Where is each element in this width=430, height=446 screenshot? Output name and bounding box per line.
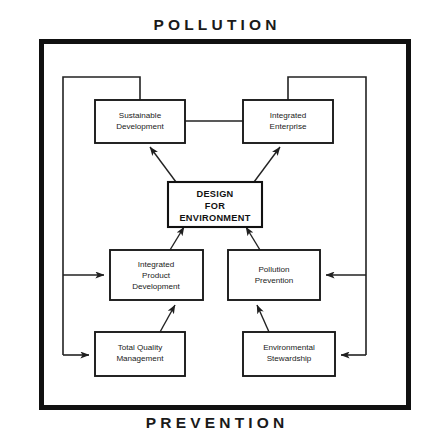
- node-total-quality-management[interactable]: Total Quality Management: [95, 332, 185, 376]
- node-environmental-stewardship[interactable]: Environmental Stewardship: [243, 332, 335, 376]
- node-environmental-stewardship-line1: Environmental: [263, 343, 315, 352]
- node-integrated-product-development-line3: Development: [132, 282, 180, 291]
- node-environmental-stewardship-line2: Stewardship: [267, 354, 312, 363]
- node-total-quality-management-line1: Total Quality: [118, 343, 163, 352]
- connector-tqm-to-ipd: [160, 305, 175, 332]
- node-design-for-environment-line3: ENVIRONMENT: [179, 213, 250, 223]
- node-integrated-enterprise-line2: Enterprise: [270, 122, 307, 131]
- node-pollution-prevention-line2: Prevention: [255, 276, 294, 285]
- connector-dfe-to-sustainable: [150, 147, 176, 182]
- node-sustainable-development-line1: Sustainable: [119, 111, 162, 120]
- node-integrated-enterprise-line1: Integrated: [270, 111, 306, 120]
- node-design-for-environment-line1: DESIGN: [196, 189, 233, 199]
- node-design-for-environment[interactable]: DESIGN FOR ENVIRONMENT: [168, 182, 262, 227]
- node-integrated-product-development[interactable]: Integrated Product Development: [110, 250, 203, 300]
- node-pollution-prevention[interactable]: Pollution Prevention: [228, 250, 320, 300]
- connector-pollution-prevention-to-dfe: [246, 227, 260, 250]
- node-integrated-product-development-line2: Product: [142, 271, 171, 280]
- page-title-bottom: PREVENTION: [0, 414, 430, 432]
- diagram-canvas: POLLUTION: [0, 0, 430, 446]
- node-integrated-product-development-line1: Integrated: [138, 260, 174, 269]
- connector-stewardship-to-pollution-prevention: [257, 305, 269, 332]
- connector-dfe-to-enterprise: [254, 147, 280, 182]
- node-total-quality-management-line2: Management: [116, 354, 164, 363]
- node-pollution-prevention-line1: Pollution: [258, 265, 289, 274]
- connector-ipd-to-dfe: [170, 227, 184, 250]
- pollution-prevention-diagram: Sustainable Development Integrated Enter…: [0, 0, 430, 446]
- node-integrated-enterprise[interactable]: Integrated Enterprise: [243, 100, 333, 143]
- node-design-for-environment-line2: FOR: [205, 201, 225, 211]
- node-sustainable-development[interactable]: Sustainable Development: [95, 100, 185, 143]
- node-sustainable-development-line2: Development: [116, 122, 164, 131]
